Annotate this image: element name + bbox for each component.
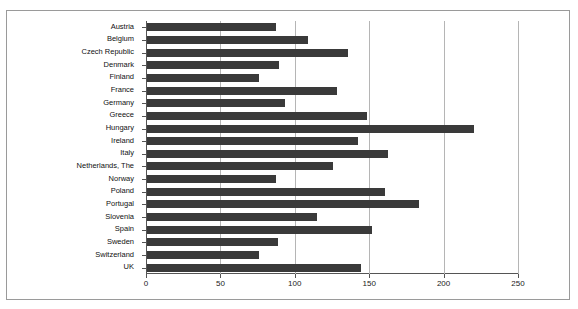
x-tick-mark-100 — [295, 274, 296, 278]
x-tick-mark-50 — [220, 274, 221, 278]
category-label: Belgium — [107, 35, 134, 43]
bar — [147, 264, 361, 272]
x-tick-mark-200 — [444, 274, 445, 278]
category-label: Denmark — [104, 61, 134, 69]
chart-outer-frame: AustriaBelgiumCzech RepublicDenmarkFinla… — [6, 10, 570, 300]
gridline-250 — [518, 21, 519, 274]
category-label: Norway — [109, 175, 134, 183]
category-label: Finland — [109, 73, 134, 81]
bar — [147, 175, 276, 183]
category-label: Ireland — [111, 137, 134, 145]
bar — [147, 238, 278, 246]
bar — [147, 49, 348, 57]
bar — [147, 61, 279, 69]
x-tick-label: 150 — [363, 279, 376, 289]
category-label: Netherlands, The — [77, 162, 134, 170]
bar — [147, 36, 308, 44]
bar — [147, 188, 385, 196]
x-tick-label: 100 — [288, 279, 301, 289]
bar — [147, 226, 372, 234]
bar — [147, 150, 388, 158]
x-tick-label: 250 — [511, 279, 524, 289]
category-label: Slovenia — [105, 213, 134, 221]
bar — [147, 251, 259, 259]
category-label: Portugal — [106, 200, 134, 208]
category-label: Switzerland — [95, 251, 134, 259]
bars-layer — [146, 21, 518, 274]
bar — [147, 213, 317, 221]
category-label: Spain — [115, 225, 134, 233]
bar — [147, 200, 419, 208]
bar — [147, 99, 285, 107]
bar — [147, 112, 367, 120]
x-tick-label: 50 — [216, 279, 225, 289]
bar — [147, 74, 259, 82]
x-tick-label: 0 — [144, 279, 148, 289]
bar — [147, 87, 337, 95]
category-label: Germany — [103, 99, 134, 107]
x-tick-mark-250 — [518, 274, 519, 278]
x-tick-label: 200 — [437, 279, 450, 289]
category-label: Poland — [111, 187, 134, 195]
x-tick-mark-0 — [146, 274, 147, 278]
category-label: Greece — [109, 111, 134, 119]
plot-area — [146, 21, 518, 274]
category-label: Austria — [111, 23, 134, 31]
category-label: Czech Republic — [81, 48, 134, 56]
category-label: Sweden — [107, 238, 134, 246]
category-axis-labels: AustriaBelgiumCzech RepublicDenmarkFinla… — [7, 21, 140, 274]
bar — [147, 125, 474, 133]
bar-chart: AustriaBelgiumCzech RepublicDenmarkFinla… — [7, 11, 571, 301]
x-tick-mark-150 — [369, 274, 370, 278]
bar — [147, 137, 358, 145]
category-label: Italy — [120, 149, 134, 157]
category-label: UK — [124, 263, 134, 271]
bar — [147, 162, 333, 170]
category-label: Hungary — [106, 124, 134, 132]
category-label: France — [111, 86, 134, 94]
bar — [147, 23, 276, 31]
